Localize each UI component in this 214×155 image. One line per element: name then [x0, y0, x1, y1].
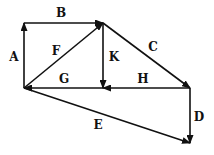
vector-label-e: E [93, 119, 102, 131]
vector-label-c: C [148, 41, 158, 53]
vector-label-k: K [109, 51, 119, 63]
vector-label-a: A [9, 51, 18, 63]
vector-diagram [0, 0, 214, 155]
vector-label-g: G [59, 73, 69, 85]
vector-label-f: F [52, 45, 61, 57]
vector-label-h: H [137, 73, 148, 85]
vector-label-d: D [194, 111, 204, 123]
vector-label-b: B [56, 7, 66, 19]
vector-arrow-e [24, 88, 190, 143]
